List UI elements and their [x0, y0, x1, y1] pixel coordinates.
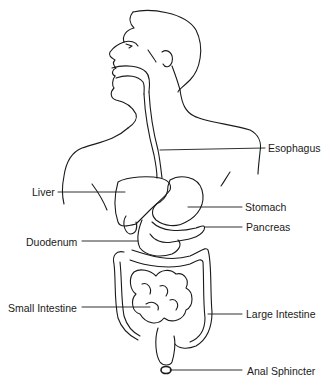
rectum — [156, 328, 175, 365]
face-profile — [109, 42, 124, 76]
head-outline — [133, 11, 201, 92]
liver — [115, 177, 171, 226]
rib-right — [221, 172, 230, 186]
label-large-intestine: Large Intestine — [246, 308, 315, 320]
ear — [162, 51, 172, 67]
hair-front — [123, 12, 134, 42]
leader-esophagus — [160, 148, 265, 150]
label-pancreas: Pancreas — [246, 221, 290, 233]
rib-left — [92, 184, 107, 210]
leader-lines — [58, 148, 265, 370]
label-small-intestine: Small Intestine — [8, 302, 77, 314]
large-intestine-outer — [113, 249, 212, 348]
label-esophagus: Esophagus — [268, 142, 321, 154]
anal-sphincter-ring — [161, 367, 171, 374]
neck-right — [180, 90, 261, 174]
jaw — [148, 50, 180, 90]
label-anal-sphincter: Anal Sphincter — [247, 365, 315, 377]
chin-neck — [111, 76, 136, 128]
eye — [126, 44, 132, 48]
label-duodenum: Duodenum — [26, 236, 77, 248]
shoulder-left — [63, 128, 129, 204]
small-intestine — [130, 270, 192, 323]
mouth-lower — [116, 76, 144, 94]
label-stomach: Stomach — [245, 201, 286, 213]
label-liver: Liver — [32, 186, 55, 198]
digestive-system-diagram: Esophagus Liver Stomach Pancreas Duodenu… — [0, 0, 330, 385]
